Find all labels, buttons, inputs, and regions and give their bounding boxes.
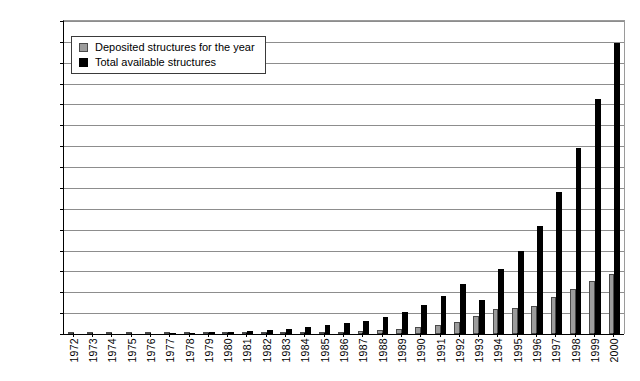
x-axis-label-1984: 1984 — [299, 338, 311, 363]
bar-total-1990 — [421, 305, 427, 334]
x-tick-1982 — [266, 333, 267, 337]
bar-total-1995 — [518, 251, 524, 334]
x-tick-1973 — [92, 333, 93, 337]
x-axis-label-1990: 1990 — [415, 338, 427, 363]
bar-group-1985 — [315, 21, 334, 334]
bar-total-1984 — [305, 327, 311, 334]
x-tick-1991 — [440, 333, 441, 337]
bar-total-1983 — [286, 329, 292, 334]
x-tick-1977 — [169, 333, 170, 337]
x-tick-1978 — [189, 333, 190, 337]
legend-item-total: Total available structures — [79, 56, 255, 68]
x-tick-1999 — [594, 333, 595, 337]
x-tick-1984 — [304, 333, 305, 337]
x-axis-label-1980: 1980 — [222, 338, 234, 363]
x-axis-label-1999: 1999 — [589, 338, 601, 363]
bar-total-1985 — [325, 325, 331, 334]
bar-total-1989 — [402, 312, 408, 334]
gray-square-icon — [79, 43, 88, 52]
bar-group-1984 — [296, 21, 315, 334]
x-axis-label-1998: 1998 — [570, 338, 582, 363]
bar-total-1993 — [479, 300, 485, 334]
bar-total-1976 — [151, 334, 157, 335]
bar-chart: 010002000300040005000600070008000900010 … — [0, 0, 640, 381]
x-axis-label-1985: 1985 — [319, 338, 331, 363]
x-axis-label-1983: 1983 — [280, 338, 292, 363]
bar-group-1989 — [392, 21, 411, 334]
x-tick-1992 — [459, 333, 460, 337]
x-axis-label-1973: 1973 — [87, 338, 99, 363]
x-axis-label-1996: 1996 — [531, 338, 543, 363]
x-axis-label-1993: 1993 — [473, 338, 485, 363]
bar-total-1988 — [383, 317, 389, 334]
bar-total-2000 — [614, 43, 620, 334]
x-axis-label-1995: 1995 — [512, 338, 524, 363]
bar-total-1999 — [595, 99, 601, 334]
legend-item-deposited: Deposited structures for the year — [79, 41, 255, 53]
x-axis-label-1997: 1997 — [550, 338, 562, 363]
bar-group-1987 — [354, 21, 373, 334]
x-tick-1975 — [131, 333, 132, 337]
x-axis-label-1994: 1994 — [492, 338, 504, 363]
bar-group-1983 — [276, 21, 295, 334]
bar-group-1998 — [566, 21, 585, 334]
bar-total-1977 — [170, 333, 176, 334]
bar-group-1994 — [489, 21, 508, 334]
bar-total-1982 — [267, 330, 273, 334]
x-tick-1979 — [208, 333, 209, 337]
bar-total-1992 — [460, 284, 466, 334]
bar-total-1979 — [209, 332, 215, 334]
x-tick-1972 — [73, 333, 74, 337]
chart-legend: Deposited structures for the year Total … — [71, 36, 266, 74]
x-tick-1998 — [575, 333, 576, 337]
x-axis-label-1982: 1982 — [261, 338, 273, 363]
x-tick-1980 — [227, 333, 228, 337]
x-axis-label-1979: 1979 — [203, 338, 215, 363]
bar-group-1999 — [585, 21, 604, 334]
x-tick-1983 — [285, 333, 286, 337]
bar-group-1986 — [334, 21, 353, 334]
bar-total-1986 — [344, 323, 350, 334]
x-axis-label-1986: 1986 — [338, 338, 350, 363]
bar-group-1990 — [412, 21, 431, 334]
x-axis-label-1974: 1974 — [106, 338, 118, 363]
bar-total-1987 — [363, 321, 369, 334]
x-axis-label-1975: 1975 — [126, 338, 138, 363]
x-tick-1996 — [536, 333, 537, 337]
x-axis-label-1972: 1972 — [68, 338, 80, 363]
x-axis-label-1987: 1987 — [357, 338, 369, 363]
black-square-icon — [79, 58, 88, 67]
x-tick-1981 — [246, 333, 247, 337]
bar-total-1980 — [228, 332, 234, 334]
bar-total-1997 — [556, 192, 562, 334]
y-tick-0 — [60, 334, 64, 335]
bar-total-1991 — [441, 296, 447, 334]
bar-group-1997 — [547, 21, 566, 334]
bar-group-1988 — [373, 21, 392, 334]
x-tick-1995 — [517, 333, 518, 337]
x-tick-1997 — [555, 333, 556, 337]
x-tick-1989 — [401, 333, 402, 337]
x-tick-1994 — [497, 333, 498, 337]
bar-group-1991 — [431, 21, 450, 334]
bar-total-1981 — [247, 331, 253, 334]
x-tick-1993 — [478, 333, 479, 337]
x-axis-label-1991: 1991 — [435, 338, 447, 363]
x-axis-label-2000: 2000 — [608, 338, 620, 363]
x-axis-label-1978: 1978 — [184, 338, 196, 363]
bar-total-1994 — [498, 269, 504, 334]
legend-label-deposited: Deposited structures for the year — [95, 41, 255, 53]
x-tick-2000 — [613, 333, 614, 337]
bar-total-1978 — [190, 333, 196, 334]
x-tick-1988 — [382, 333, 383, 337]
x-tick-1986 — [343, 333, 344, 337]
x-axis-label-1989: 1989 — [396, 338, 408, 363]
bar-total-1998 — [576, 148, 582, 334]
x-axis-label-1992: 1992 — [454, 338, 466, 363]
x-tick-1987 — [362, 333, 363, 337]
bar-group-1992 — [450, 21, 469, 334]
x-tick-1976 — [150, 333, 151, 337]
x-axis-label-1988: 1988 — [377, 338, 389, 363]
x-tick-1974 — [111, 333, 112, 337]
x-axis-label-1981: 1981 — [241, 338, 253, 363]
